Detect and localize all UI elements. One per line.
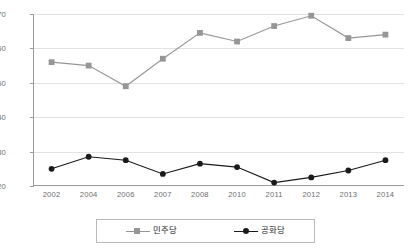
legend-label: 민주당 [153,226,177,235]
y-axis-tick [30,83,34,84]
gridline [34,117,404,118]
x-axis-tick-label: 2007 [154,190,172,199]
legend-marker-icon [234,227,258,236]
legend-marker-icon [126,227,150,236]
y-axis-tick-label: 30 [0,147,6,156]
y-axis-tick-label: 50 [0,78,6,87]
legend-item[interactable]: 공화당 [234,226,285,235]
gridline [34,14,404,15]
y-axis-tick [30,152,34,153]
y-axis-tick [30,117,34,118]
x-axis-tick-label: 2008 [191,190,209,199]
y-axis-tick-label: 70 [0,10,6,19]
x-axis-tick-label: 2006 [117,190,135,199]
gridline [34,48,404,49]
chart-legend: 민주당공화당 [96,219,315,243]
y-axis-tick-label: 20 [0,182,6,191]
legend-item[interactable]: 민주당 [126,226,177,235]
gridline [34,152,404,153]
y-axis-tick-label: 60 [0,44,6,53]
x-axis-tick-label: 2013 [339,190,357,199]
x-axis-tick-label: 2012 [302,190,320,199]
x-axis-tick-label: 2002 [43,190,61,199]
x-axis-tick-label: 2014 [377,190,395,199]
y-axis-tick [30,186,34,187]
y-axis-tick [30,14,34,15]
gridline [34,83,404,84]
line-chart: 203040506070 200220042006200720082010201… [0,0,412,251]
x-axis-tick-label: 2011 [266,190,283,199]
y-axis-tick [30,48,34,49]
x-axis-tick-label: 2004 [80,190,98,199]
x-axis-tick-label: 2010 [228,190,246,199]
plot-area [33,14,404,186]
legend-label: 공화당 [261,226,285,235]
y-axis-tick-label: 40 [0,113,6,122]
